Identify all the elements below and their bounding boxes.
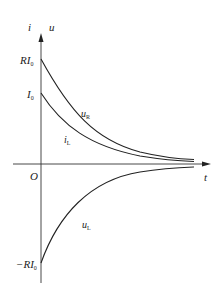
label-iL: iL [64,134,71,146]
tick-RI0: RI0 [19,54,33,67]
label-t: t [204,171,208,183]
label-uR: uR [81,108,90,120]
time-axis-arrow-icon [202,162,211,167]
curve-iL [41,93,194,162]
label-uL: uL [82,219,91,231]
vertical-axis-arrow-icon [39,33,44,42]
label-i: i [28,21,31,33]
decay-diagram: i u t O RI0 I0 −RI0 uR iL uL [0,0,224,300]
tick-I0: I0 [26,88,34,101]
curve-uL [41,167,194,263]
label-u: u [49,21,55,33]
label-origin: O [30,170,38,182]
tick-neg-RI0: −RI0 [16,258,37,271]
